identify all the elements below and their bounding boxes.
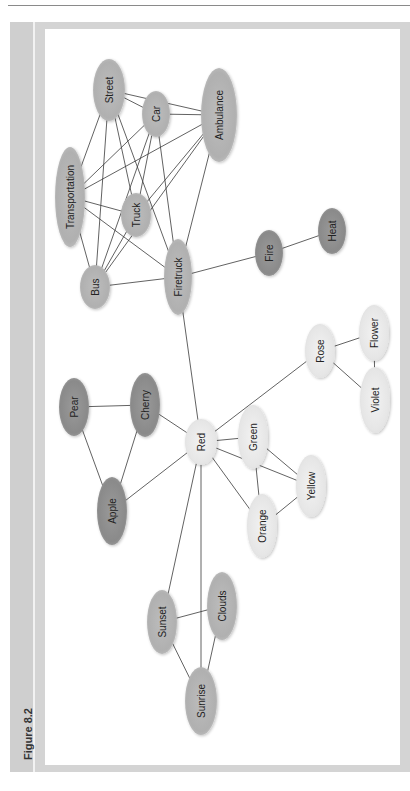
node-label: Fire <box>264 244 275 262</box>
node-label: Cherry <box>140 390 151 420</box>
node-street: Street <box>93 59 125 121</box>
node-green: Green <box>238 405 268 469</box>
node-label: Ambulance <box>214 90 225 140</box>
node-orange: Orange <box>247 494 277 558</box>
node-label: Bus <box>90 278 101 295</box>
node-label: Sunset <box>157 606 168 637</box>
node-sunrise: Sunrise <box>185 667 217 735</box>
node-apple: Apple <box>97 477 127 545</box>
node-rose: Rose <box>305 324 335 378</box>
node-layer: StreetCarAmbulanceTransportationTruckBus… <box>55 59 390 735</box>
node-pear: Pear <box>59 378 89 436</box>
node-label: Car <box>151 105 162 122</box>
node-violet: Violet <box>360 367 390 433</box>
node-fire: Fire <box>255 230 283 276</box>
node-label: Sunrise <box>196 684 207 718</box>
node-ambulance: Ambulance <box>201 68 237 162</box>
node-truck: Truck <box>121 193 151 237</box>
node-label: Street <box>104 76 115 103</box>
node-yellow: Yellow <box>296 455 326 517</box>
node-cherry: Cherry <box>130 373 160 437</box>
node-label: Violet <box>370 387 381 412</box>
node-red: Red <box>185 419 217 465</box>
node-label: Transportation <box>65 165 76 229</box>
node-flower: Flower <box>359 305 389 361</box>
node-heat: Heat <box>318 208 346 254</box>
node-label: Orange <box>257 509 268 543</box>
node-label: Red <box>196 433 207 451</box>
node-label: Flower <box>369 317 380 348</box>
node-firetruck: Firetruck <box>164 239 192 315</box>
node-label: Yellow <box>306 471 317 500</box>
node-label: Pear <box>69 396 80 418</box>
node-transportation: Transportation <box>55 147 85 247</box>
node-sunset: Sunset <box>147 590 177 654</box>
node-label: Heat <box>327 220 338 241</box>
node-label: Rose <box>315 339 326 363</box>
node-bus: Bus <box>80 265 110 309</box>
node-label: Truck <box>131 202 142 228</box>
semantic-network-diagram: StreetCarAmbulanceTransportationTruckBus… <box>0 0 410 791</box>
node-label: Firetruck <box>173 257 184 297</box>
node-clouds: Clouds <box>207 572 237 640</box>
edge-ambulance-transportation <box>70 115 219 197</box>
node-label: Green <box>248 423 259 451</box>
node-car: Car <box>142 91 170 137</box>
node-label: Apple <box>107 498 118 524</box>
node-label: Clouds <box>217 590 228 621</box>
